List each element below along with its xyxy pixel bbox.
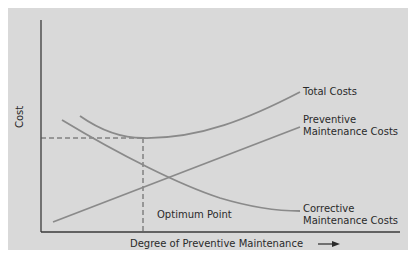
- optimum-point-label: Optimum Point: [157, 209, 232, 221]
- total-costs-label: Total Costs: [303, 86, 357, 98]
- total-costs-curve: [80, 92, 300, 138]
- corrective-costs-curve: [62, 120, 300, 211]
- preventive-label-2: Maintenance Costs: [303, 126, 398, 138]
- corrective-label-1: Corrective: [303, 203, 354, 215]
- preventive-label-1: Preventive: [303, 114, 356, 126]
- x-arrow-head: [332, 241, 340, 247]
- corrective-label-2: Maintenance Costs: [303, 215, 398, 227]
- x-axis-label: Degree of Preventive Maintenance: [130, 238, 303, 250]
- y-axis-label: Cost: [14, 106, 25, 128]
